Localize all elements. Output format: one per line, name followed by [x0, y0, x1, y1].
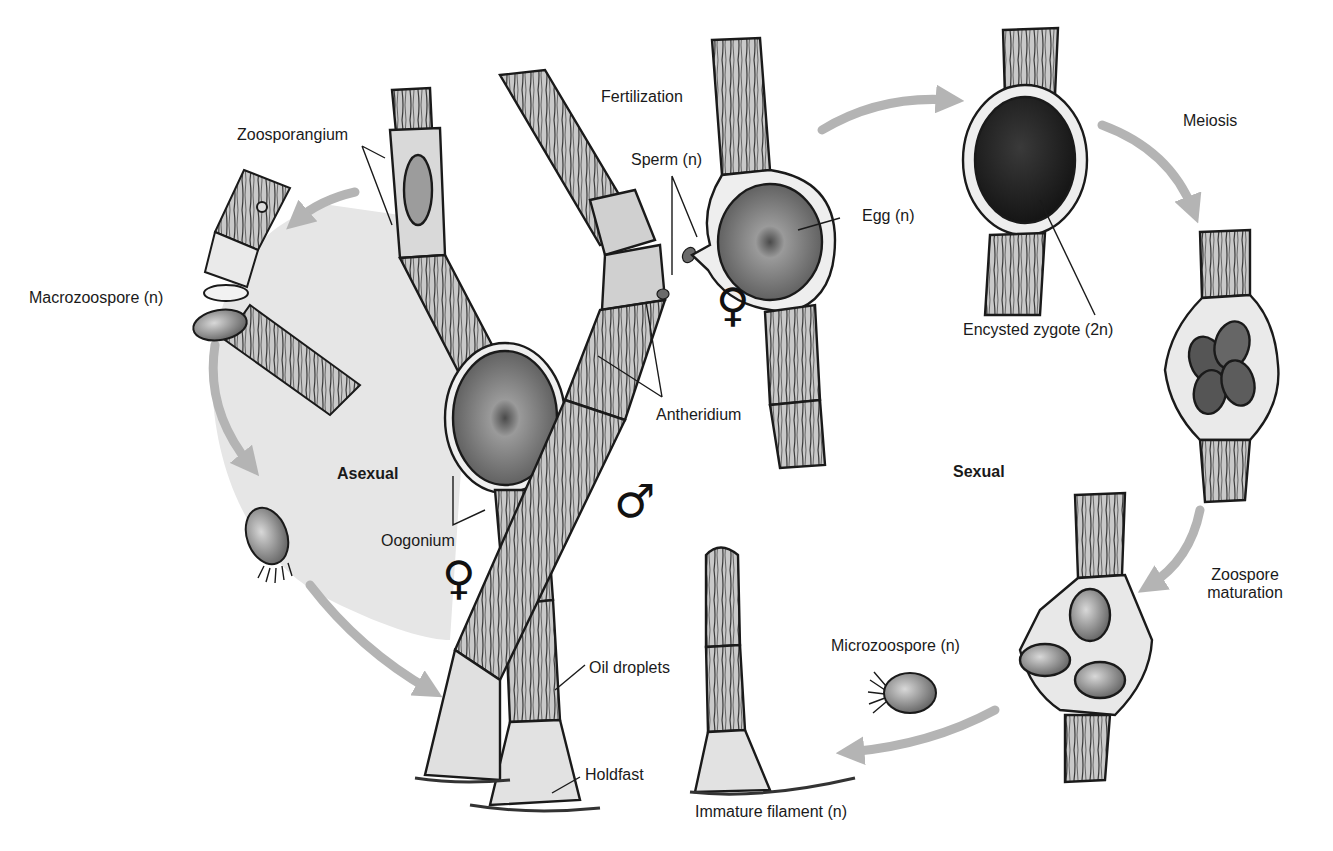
label-microzoospore: Microzoospore (n)	[831, 637, 960, 655]
label-sexual-phase: Sexual	[953, 463, 1005, 481]
label-antheridium: Antheridium	[656, 406, 741, 424]
label-sperm: Sperm (n)	[631, 151, 702, 169]
label-zoosporangium: Zoosporangium	[237, 126, 348, 144]
diagram-artwork	[0, 0, 1333, 851]
meiosis-cell	[1165, 230, 1278, 502]
label-meiosis: Meiosis	[1183, 112, 1237, 130]
label-encysted-zygote: Encysted zygote (2n)	[963, 321, 1113, 339]
label-asexual-phase: Asexual	[337, 465, 398, 483]
female-symbol-icon: ♀	[716, 282, 750, 328]
immature-filament	[690, 548, 855, 795]
male-symbol-icon: ♂	[614, 478, 655, 524]
arrow-fertilization-to-zygote	[822, 99, 950, 130]
arrow-microzoospore-to-filament	[850, 710, 995, 752]
label-oogonium: Oogonium	[381, 532, 455, 550]
label-fertilization: Fertilization	[601, 88, 683, 106]
arrow-zoospore-maturation	[1150, 510, 1200, 585]
arrow-meiosis	[1102, 125, 1193, 210]
zoospore-maturation-cell	[1020, 493, 1152, 782]
microzoospore	[868, 672, 936, 713]
female-symbol-icon: ♀	[442, 555, 476, 601]
life-cycle-diagram: Zoosporangium Macrozoospore (n) Fertiliz…	[0, 0, 1333, 851]
label-oil-droplets: Oil droplets	[589, 659, 670, 677]
encysted-zygote	[963, 28, 1095, 315]
egg-filament	[692, 38, 840, 468]
label-immature-filament: Immature filament (n)	[695, 803, 847, 821]
label-zoospore-maturation: Zoospore maturation	[1196, 566, 1294, 602]
leader-oil-droplets	[555, 665, 585, 690]
label-zoospore-maturation-line1: Zoospore	[1196, 566, 1294, 584]
label-macrozoospore: Macrozoospore (n)	[29, 289, 163, 307]
label-zoospore-maturation-line2: maturation	[1196, 584, 1294, 602]
label-egg: Egg (n)	[862, 207, 914, 225]
label-holdfast: Holdfast	[585, 766, 644, 784]
